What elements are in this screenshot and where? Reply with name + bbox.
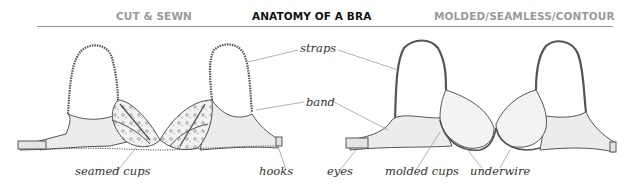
right-strap xyxy=(210,44,252,112)
cut-sewn-bra xyxy=(18,44,282,150)
label-molded-cups: molded cups xyxy=(385,164,459,178)
molded-bra xyxy=(346,41,616,153)
left-strap xyxy=(68,45,118,114)
molded-left-strap xyxy=(395,41,446,121)
molded-right-band xyxy=(540,112,614,152)
molded-eyes-tab xyxy=(346,138,368,148)
label-seamed-cups: seamed cups xyxy=(75,164,150,178)
label-eyes: eyes xyxy=(327,164,353,178)
left-eyes-tab xyxy=(18,141,46,149)
label-hooks: hooks xyxy=(259,164,293,178)
hooks-tab xyxy=(276,137,282,146)
molded-right-cup xyxy=(496,90,547,147)
label-straps: straps xyxy=(300,41,336,55)
label-band: band xyxy=(306,95,335,109)
label-underwire: underwire xyxy=(470,164,530,178)
molded-right-strap xyxy=(536,41,586,112)
